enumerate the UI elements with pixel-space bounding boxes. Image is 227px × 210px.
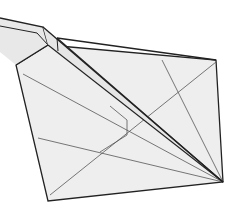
origami-diagram: [0, 0, 227, 210]
paper-body: [16, 45, 223, 201]
